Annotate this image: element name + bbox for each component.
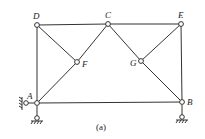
member-GE <box>141 24 181 61</box>
joint-E <box>179 22 184 27</box>
truss-diagram: D C E F G A B (a) <box>0 0 205 139</box>
member-DC <box>37 24 108 25</box>
label-G: G <box>130 58 137 68</box>
label-D: D <box>32 11 40 21</box>
joint-B <box>180 100 185 105</box>
member-FA <box>37 62 77 103</box>
member-DF <box>37 25 77 62</box>
member-FC <box>77 24 108 62</box>
label-F: F <box>81 59 88 69</box>
support-A-vertical <box>31 106 43 124</box>
joint-C <box>106 22 111 27</box>
joint-G <box>139 59 144 64</box>
joint-D <box>35 23 40 28</box>
label-C: C <box>105 10 112 20</box>
member-GB <box>141 61 182 102</box>
member-AB <box>37 102 182 103</box>
figure-caption: (a) <box>96 122 106 132</box>
member-CG <box>108 24 141 61</box>
label-A: A <box>26 91 33 101</box>
joint-A <box>35 101 40 106</box>
joint-F <box>75 60 80 65</box>
support-B-vertical <box>176 105 188 123</box>
label-E: E <box>177 10 184 20</box>
label-B: B <box>187 97 193 107</box>
member-EB <box>181 24 182 102</box>
